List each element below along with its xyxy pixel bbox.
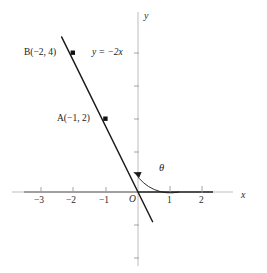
line-y-equals-minus-2x <box>62 37 153 222</box>
y-axis-label: y <box>144 11 148 21</box>
figure-canvas <box>0 0 267 273</box>
angle-arc <box>136 173 180 193</box>
x-tick-label-neg1: −1 <box>99 196 109 206</box>
point-marker-b <box>71 51 75 55</box>
point-a-label: A(−1, 2) <box>57 114 90 124</box>
x-tick-label-2: 2 <box>199 196 204 206</box>
x-tick-label-neg3: −3 <box>34 196 44 206</box>
theta-label: θ <box>159 163 164 174</box>
equation-label: y = −2x <box>92 48 123 58</box>
point-marker-a <box>103 117 107 121</box>
coordinate-plane-figure: B(−2, 4) A(−1, 2) y = −2x θ O x y −3 −2 … <box>0 0 267 273</box>
origin-label: O <box>129 195 136 205</box>
x-axis-label: x <box>241 190 245 200</box>
x-tick-label-neg2: −2 <box>66 196 76 206</box>
x-tick-label-1: 1 <box>167 196 172 206</box>
point-b-label: B(−2, 4) <box>24 48 56 58</box>
